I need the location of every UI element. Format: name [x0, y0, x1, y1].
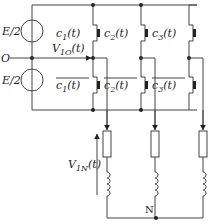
inductor-icon — [107, 172, 110, 196]
switch-upper-2-label: c2(t) — [104, 27, 128, 42]
inductor-icon — [155, 172, 158, 196]
midpoint-node: O V1O(t) — [1, 42, 91, 65]
leg-1: c1(t) c1(t) — [56, 3, 107, 128]
source-label-upper: E/2 — [1, 25, 21, 38]
switch-lower-2-icon — [141, 77, 145, 93]
v1n-label: V1N(t) — [68, 158, 101, 173]
source-label-lower: E/2 — [1, 74, 21, 87]
switch-lower-1-label: c1(t) — [56, 79, 80, 94]
load-phase-3 — [199, 110, 207, 218]
resistor-icon — [103, 131, 111, 157]
switch-lower-1-icon — [93, 77, 97, 93]
switch-upper-1-label: c1(t) — [56, 27, 80, 42]
inverter-circuit-diagram: E/2 E/2 O V1O(t) c1(t) c1(t) — [0, 0, 214, 224]
v1o-label: V1O(t) — [52, 42, 85, 57]
switch-lower-3-label: c3(t) — [152, 79, 176, 94]
switch-upper-3-icon — [189, 25, 193, 41]
switch-upper-1-icon — [93, 25, 97, 41]
voltage-source-upper: E/2 — [1, 20, 43, 42]
switch-lower-2-label: c2(t) — [104, 79, 128, 94]
resistor-icon — [151, 131, 159, 157]
leg-2: c2(t) c2(t) — [104, 3, 155, 128]
switch-upper-3-label: c3(t) — [152, 27, 176, 42]
midpoint-label: O — [1, 52, 10, 65]
switch-upper-2-icon — [141, 25, 145, 41]
neutral-label: N — [145, 204, 154, 215]
inductor-icon — [203, 172, 206, 196]
load-phase-2 — [151, 110, 159, 218]
load-phase-1 — [103, 110, 111, 218]
neutral-node-dot-icon — [154, 216, 158, 220]
resistor-icon — [199, 131, 207, 157]
v1n-indicator: V1N(t) — [68, 134, 101, 195]
voltage-source-lower: E/2 — [1, 69, 43, 91]
switch-lower-3-icon — [189, 77, 193, 93]
